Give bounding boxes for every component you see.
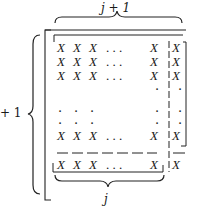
matrix-entry: X [73,128,81,144]
ellipsis: . . . [106,128,122,144]
matrix-entry: X [150,128,158,144]
matrix-entry: X [57,157,65,173]
left-brace-label: + 1 [0,106,22,120]
matrix-entry: X [73,68,81,84]
matrix-entry: X [57,68,65,84]
matrix-entry: X [89,157,97,173]
matrix-structure-lines [0,0,203,217]
matrix-entry: X [172,128,180,144]
matrix-entry: X [89,128,97,144]
matrix-entry: X [172,157,180,173]
matrix-entry: X [89,68,97,84]
ellipsis: . . . [106,157,122,173]
matrix-entry: X [150,157,158,173]
ellipsis: . . . [106,68,122,84]
matrix-entry: X [57,128,65,144]
matrix-entry: X [73,157,81,173]
bottom-brace-label: j [104,192,108,206]
top-brace-label: j + 1 [101,1,130,15]
